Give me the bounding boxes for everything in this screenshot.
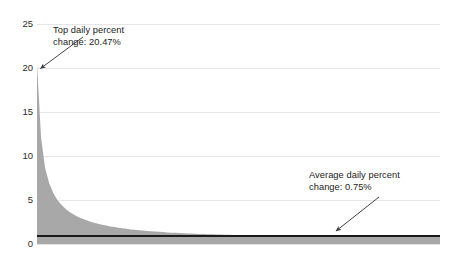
chart-container: 0510152025 Top daily percent change: 20.… [0,0,456,270]
annotation-arrow-average [336,197,379,231]
annotation-average-daily-percent-change: Average daily percent change: 0.75% [309,170,400,193]
area-series-daily-percent-change [37,64,440,244]
annotation-top-daily-percent-change: Top daily percent change: 20.47% [53,25,124,48]
